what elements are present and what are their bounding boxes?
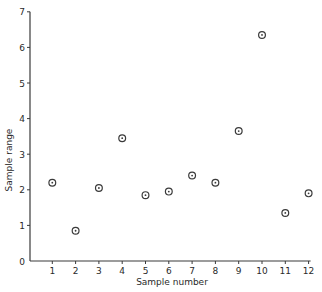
- marker-center-dot: [51, 182, 53, 184]
- marker-center-dot: [121, 137, 123, 139]
- x-tick-label: 1: [49, 266, 55, 276]
- data-point: [212, 179, 219, 186]
- y-tick-label: 1: [19, 221, 25, 231]
- axes: [30, 12, 311, 261]
- x-tick-label: 7: [189, 266, 195, 276]
- data-point: [235, 128, 242, 135]
- x-tick-label: 11: [280, 266, 291, 276]
- data-point: [259, 32, 266, 39]
- scatter-chart: 01234567 123456789101112 Sample range Sa…: [0, 0, 322, 292]
- marker-center-dot: [75, 230, 77, 232]
- data-point: [189, 172, 196, 179]
- marker-center-dot: [308, 192, 310, 194]
- marker-center-dot: [98, 187, 100, 189]
- y-tick-label: 6: [19, 43, 25, 53]
- plot-area: 01234567 123456789101112 Sample range Sa…: [0, 0, 322, 292]
- y-tick-label: 3: [19, 150, 25, 160]
- marker-center-dot: [261, 34, 263, 36]
- x-tick-label: 10: [256, 266, 268, 276]
- data-point: [49, 179, 56, 186]
- y-tick-label: 5: [19, 79, 25, 89]
- marker-center-dot: [191, 175, 193, 177]
- y-axis-title: Sample range: [4, 128, 14, 191]
- data-point: [96, 185, 103, 192]
- data-point: [72, 227, 79, 234]
- x-tick-label: 5: [143, 266, 149, 276]
- data-point: [165, 188, 172, 195]
- x-tick-label: 2: [73, 266, 79, 276]
- y-tick-label: 0: [19, 257, 25, 267]
- marker-center-dot: [284, 212, 286, 214]
- x-axis-ticks: 123456789101112: [49, 261, 314, 276]
- data-point: [119, 135, 126, 142]
- y-tick-label: 2: [19, 185, 25, 195]
- x-tick-label: 8: [213, 266, 219, 276]
- x-tick-label: 4: [119, 266, 125, 276]
- y-tick-label: 7: [19, 7, 25, 17]
- data-point: [142, 192, 149, 199]
- x-tick-label: 9: [236, 266, 242, 276]
- data-point: [282, 210, 289, 217]
- data-points: [49, 32, 312, 235]
- x-tick-label: 6: [166, 266, 172, 276]
- data-point: [305, 190, 312, 197]
- y-tick-label: 4: [19, 114, 25, 124]
- x-axis-title: Sample number: [136, 277, 208, 287]
- marker-center-dot: [145, 194, 147, 196]
- marker-center-dot: [215, 182, 217, 184]
- marker-center-dot: [168, 191, 170, 193]
- x-tick-label: 3: [96, 266, 102, 276]
- x-tick-label: 12: [303, 266, 314, 276]
- y-axis-ticks: 01234567: [19, 7, 30, 266]
- marker-center-dot: [238, 130, 240, 132]
